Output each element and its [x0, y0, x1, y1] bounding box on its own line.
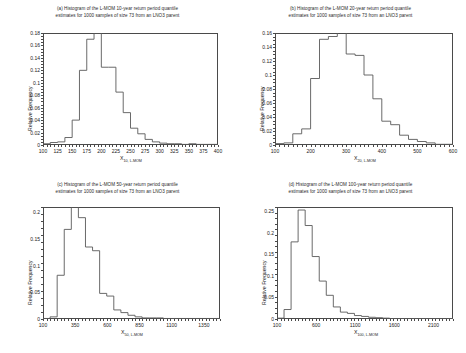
x-minor-tick: [139, 319, 140, 321]
y-minor-tick: [41, 256, 43, 257]
y-minor-tick: [275, 263, 277, 264]
x-minor-tick: [64, 319, 65, 321]
x-minor-tick: [319, 319, 320, 321]
y-tick-label: 0.1: [21, 80, 40, 86]
y-minor-tick: [273, 44, 275, 45]
y-minor-tick: [41, 305, 43, 306]
x-minor-tick: [141, 145, 142, 147]
x-minor-tick: [393, 319, 394, 321]
y-tick-label: 0.16: [253, 30, 272, 36]
y-minor-tick: [41, 129, 43, 130]
x-minor-tick: [386, 145, 387, 147]
x-minor-tick: [142, 319, 143, 321]
x-minor-tick: [337, 145, 338, 147]
panel-b-x-axis-label: X20, L-MOM: [325, 155, 405, 163]
x-minor-tick: [435, 145, 436, 147]
x-minor-tick: [351, 319, 352, 321]
x-minor-tick: [449, 145, 450, 147]
y-minor-tick: [41, 270, 43, 271]
x-tick-label: 150: [68, 148, 76, 154]
x-minor-tick: [397, 319, 398, 321]
x-minor-tick: [207, 145, 208, 147]
y-minor-tick: [275, 218, 277, 219]
y-minor-tick: [273, 131, 275, 132]
x-minor-tick: [418, 319, 419, 321]
x-minor-tick: [107, 319, 108, 321]
x-minor-tick: [440, 145, 441, 147]
x-minor-tick: [211, 145, 212, 147]
x-minor-tick: [449, 319, 450, 321]
x-minor-tick: [209, 319, 210, 321]
x-minor-tick: [85, 319, 86, 321]
x-minor-tick: [323, 319, 324, 321]
y-minor-tick: [41, 235, 43, 236]
panel-c-histogram: [43, 207, 220, 319]
y-minor-tick: [273, 142, 275, 143]
y-tick-label: 0.04: [253, 114, 272, 120]
y-minor-tick: [41, 263, 43, 264]
x-minor-tick: [431, 145, 432, 147]
y-minor-tick: [41, 45, 43, 46]
x-minor-tick: [293, 145, 294, 147]
x-minor-tick: [200, 145, 201, 147]
x-minor-tick: [364, 145, 365, 147]
y-minor-tick: [275, 235, 277, 236]
x-minor-tick: [340, 319, 341, 321]
x-minor-tick: [79, 145, 80, 147]
x-minor-tick: [297, 145, 298, 147]
x-minor-tick: [54, 319, 55, 321]
x-minor-tick: [407, 319, 408, 321]
x-minor-tick: [69, 145, 70, 147]
y-minor-tick: [41, 77, 43, 78]
y-tick-label: 0.15: [255, 251, 274, 257]
x-minor-tick: [54, 145, 55, 147]
y-minor-tick: [41, 33, 43, 34]
y-minor-tick: [41, 92, 43, 93]
y-minor-tick: [41, 136, 43, 137]
x-minor-tick: [146, 319, 147, 321]
x-minor-tick: [121, 319, 122, 321]
x-tick-label: 600: [312, 322, 320, 328]
x-minor-tick: [185, 145, 186, 147]
x-minor-tick: [181, 319, 182, 321]
x-minor-tick: [47, 145, 48, 147]
y-minor-tick: [41, 284, 43, 285]
x-minor-tick: [390, 319, 391, 321]
panel-c: (c) Histogram of the L-MOM 50-year retur…: [0, 176, 233, 353]
y-tick-label: 0.1: [253, 72, 272, 78]
y-minor-tick: [273, 61, 275, 62]
y-minor-tick: [273, 47, 275, 48]
x-minor-tick: [342, 145, 343, 147]
x-minor-tick: [395, 145, 396, 147]
y-tick-label: 0.25: [255, 208, 274, 214]
x-minor-tick: [112, 145, 113, 147]
x-minor-tick: [149, 319, 150, 321]
x-minor-tick: [435, 319, 436, 321]
x-minor-tick: [213, 319, 214, 321]
x-minor-tick: [284, 145, 285, 147]
y-minor-tick: [275, 241, 277, 242]
x-minor-tick: [149, 145, 150, 147]
y-minor-tick: [41, 298, 43, 299]
x-minor-tick: [87, 145, 88, 147]
panel-c-x-axis-label: X50, L-MOM: [92, 329, 172, 337]
panel-d-title: (d) Histogram of the L-MOM 100-year retu…: [241, 182, 460, 195]
x-minor-tick: [50, 319, 51, 321]
x-minor-tick: [358, 319, 359, 321]
x-minor-tick: [192, 319, 193, 321]
x-minor-tick: [110, 319, 111, 321]
y-minor-tick: [41, 108, 43, 109]
y-minor-tick: [273, 114, 275, 115]
panel-a-title-line1: (a) Histogram of the L-MOM 10-year retur…: [8, 6, 227, 13]
x-minor-tick: [94, 145, 95, 147]
y-minor-tick: [273, 54, 275, 55]
x-minor-tick: [383, 319, 384, 321]
x-minor-tick: [444, 145, 445, 147]
y-minor-tick: [41, 49, 43, 50]
y-minor-tick: [41, 291, 43, 292]
y-tick-label: 0.2: [255, 230, 274, 236]
x-minor-tick: [391, 145, 392, 147]
y-minor-tick: [273, 124, 275, 125]
x-minor-tick: [218, 145, 219, 147]
y-minor-tick: [41, 228, 43, 229]
